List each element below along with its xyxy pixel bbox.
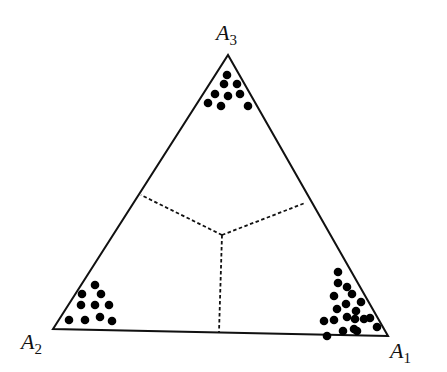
data-point	[211, 90, 220, 99]
vertex-label-a1: A1	[390, 340, 411, 366]
dashed-boundary-1	[141, 195, 222, 235]
data-point	[343, 313, 352, 322]
data-point	[236, 90, 245, 99]
vertex-label-a3: A3	[216, 22, 237, 48]
data-point	[352, 307, 361, 316]
data-point	[204, 99, 213, 108]
data-point	[91, 281, 100, 290]
data-point	[91, 301, 100, 310]
data-point	[357, 298, 366, 307]
data-point	[333, 305, 342, 314]
data-point	[353, 327, 362, 336]
data-point	[351, 315, 360, 324]
cluster-a2	[65, 281, 117, 326]
decision-boundaries	[141, 195, 305, 332]
dashed-boundary-3	[219, 235, 222, 332]
data-point	[217, 102, 226, 111]
cluster-a3	[204, 71, 253, 111]
data-point	[77, 301, 86, 310]
data-point	[330, 292, 339, 301]
data-point	[334, 268, 343, 277]
data-point	[97, 290, 106, 299]
cluster-a1	[320, 268, 382, 341]
dashed-boundary-2	[222, 203, 305, 235]
data-point	[330, 316, 339, 325]
data-point	[224, 92, 233, 101]
data-point	[233, 80, 242, 89]
data-point	[78, 290, 87, 299]
data-point	[323, 332, 332, 341]
data-point	[105, 301, 114, 310]
data-point	[348, 290, 357, 299]
data-point	[96, 313, 105, 322]
ternary-diagram: A3 A2 A1	[0, 0, 447, 372]
sample-points	[65, 71, 382, 341]
data-point	[343, 283, 352, 292]
data-point	[373, 323, 382, 332]
simplex-figure	[0, 0, 447, 372]
data-point	[320, 317, 329, 326]
data-point	[339, 327, 348, 336]
data-point	[81, 316, 90, 325]
vertex-label-a2: A2	[21, 331, 42, 357]
data-point	[366, 314, 375, 323]
data-point	[342, 300, 351, 309]
data-point	[223, 71, 232, 80]
data-point	[65, 316, 74, 325]
data-point	[220, 80, 229, 89]
data-point	[334, 279, 343, 288]
data-point	[108, 317, 117, 326]
data-point	[244, 102, 253, 111]
